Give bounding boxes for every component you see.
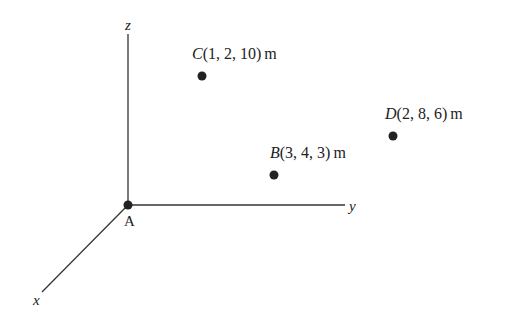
- point-c: C(1, 2, 10)m: [192, 45, 277, 81]
- point-dot: [389, 132, 398, 141]
- point-d: D(2, 8, 6)m: [384, 105, 463, 141]
- axes: [42, 34, 345, 292]
- origin-label: A: [124, 213, 135, 229]
- coordinate-diagram: z y x A C(1, 2, 10)mD(2, 8, 6)mB(3, 4, 3…: [0, 0, 518, 320]
- x-axis-label: x: [32, 292, 40, 308]
- z-axis-label: z: [124, 17, 131, 33]
- point-b: B(3, 4, 3)m: [270, 144, 347, 180]
- points: C(1, 2, 10)mD(2, 8, 6)mB(3, 4, 3)m: [192, 45, 463, 180]
- point-dot: [198, 72, 207, 81]
- point-label: B(3, 4, 3)m: [270, 144, 346, 162]
- point-label: C(1, 2, 10)m: [192, 45, 277, 63]
- origin-point-a: [124, 201, 133, 210]
- point-dot: [270, 171, 279, 180]
- y-axis-label: y: [347, 198, 356, 214]
- point-label: D(2, 8, 6)m: [384, 105, 463, 123]
- x-axis: [42, 205, 128, 292]
